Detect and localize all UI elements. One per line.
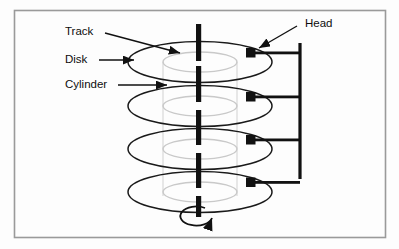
head-4	[246, 178, 256, 188]
head-3	[246, 135, 256, 145]
read-write-heads	[246, 48, 256, 187]
head-1	[246, 48, 256, 58]
head-2	[246, 92, 256, 102]
disk-diagram-svg: Track Disk Cylinder Head	[0, 0, 399, 249]
label-track: Track	[65, 25, 94, 37]
disk-structure-figure: Track Disk Cylinder Head	[0, 0, 399, 249]
head-leader-line	[259, 26, 297, 48]
spindle	[196, 24, 201, 217]
label-head: Head	[305, 17, 333, 29]
label-cylinder: Cylinder	[65, 78, 107, 90]
label-disk: Disk	[65, 53, 88, 65]
actuator-bar	[298, 43, 301, 179]
